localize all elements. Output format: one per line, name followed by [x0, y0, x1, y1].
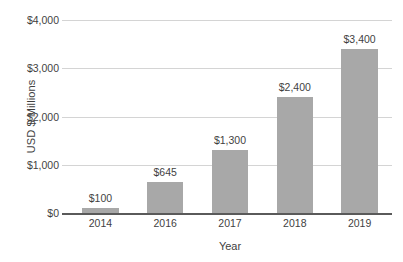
- bar-slot: $1,300: [212, 20, 248, 213]
- y-tick-label: $3,000: [8, 63, 64, 73]
- bar: [82, 208, 118, 213]
- bar-slot: $100: [82, 20, 118, 213]
- plot-area: $100$645$1,300$2,400$3,400: [68, 20, 392, 213]
- x-tick-label: 2018: [262, 217, 327, 229]
- bar: [277, 97, 313, 213]
- bar: [341, 49, 377, 213]
- x-tick-label: 2019: [327, 217, 392, 229]
- y-tick-label: $4,000: [8, 15, 64, 25]
- bar-slot: $645: [147, 20, 183, 213]
- x-tick-label: 2014: [68, 217, 133, 229]
- bar-chart: USD $ Millions $0$1,000$2,000$3,000$4,00…: [0, 0, 403, 262]
- y-tick-label: $1,000: [8, 160, 64, 170]
- x-axis-title: Year: [68, 240, 392, 252]
- axis-baseline: [62, 213, 392, 215]
- bar-value-label: $100: [89, 193, 112, 204]
- bar-value-label: $2,400: [279, 82, 311, 93]
- x-tick-label: 2016: [133, 217, 198, 229]
- y-tick-label: $2,000: [8, 112, 64, 122]
- bar-slot: $2,400: [277, 20, 313, 213]
- bar: [147, 182, 183, 213]
- y-tick-label: $0: [8, 208, 64, 218]
- bar-slot: $3,400: [341, 20, 377, 213]
- bar-value-label: $1,300: [214, 135, 246, 146]
- bar-value-label: $645: [154, 167, 177, 178]
- bar-value-label: $3,400: [344, 34, 376, 45]
- bar: [212, 150, 248, 213]
- bars-layer: $100$645$1,300$2,400$3,400: [68, 20, 392, 213]
- x-tick-label: 2017: [198, 217, 263, 229]
